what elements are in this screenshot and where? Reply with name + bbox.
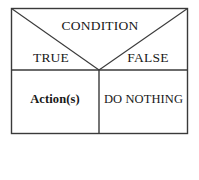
true-label: TRUE xyxy=(11,51,91,65)
false-label: FALSE xyxy=(108,51,188,65)
condition-label: CONDITION xyxy=(11,19,189,33)
decision-table-diagram: CONDITION TRUE FALSE Action(s) DO NOTHIN… xyxy=(0,0,199,180)
actions-label: Action(s) xyxy=(11,93,99,106)
do-nothing-label: DO NOTHING xyxy=(99,93,188,106)
